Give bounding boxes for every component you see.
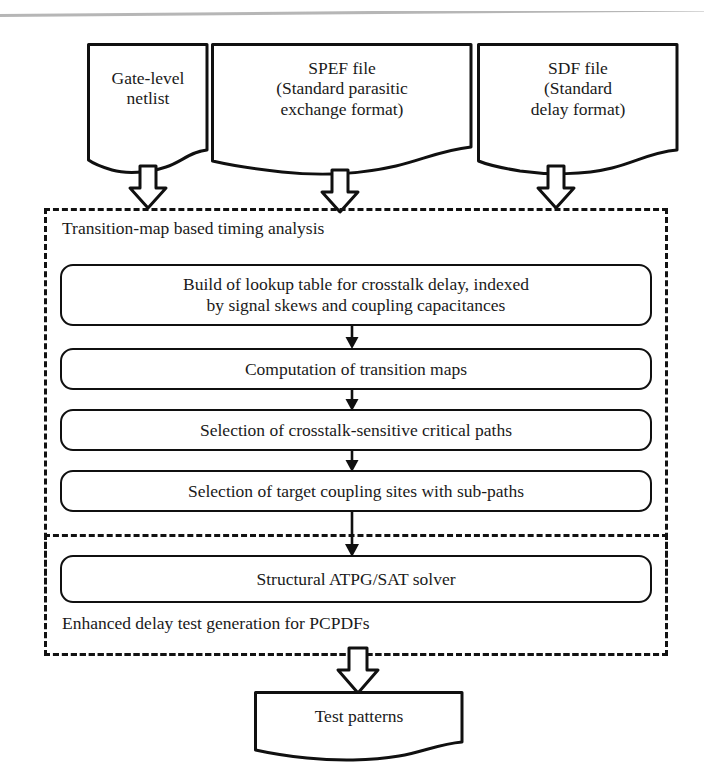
output-doc-test-patterns <box>253 690 465 766</box>
connector-coupling-sites-to-atpg <box>340 510 364 558</box>
connector-lookup-to-transition-maps <box>340 326 364 350</box>
page-rule <box>0 11 704 18</box>
input-doc-spef-file <box>210 42 474 180</box>
step-structural-atpg-sat-solver[interactable]: Structural ATPG/SAT solver <box>60 555 652 603</box>
step-label-selection-of-critical-paths: Selection of crosstalk-sensitive critica… <box>200 420 512 441</box>
connector-transition-maps-to-critical-paths <box>340 388 364 412</box>
step-selection-of-coupling-sites[interactable]: Selection of target coupling sites with … <box>60 470 652 512</box>
step-build-lookup-table[interactable]: Build of lookup table for crosstalk dela… <box>60 264 652 326</box>
step-label-selection-of-coupling-sites: Selection of target coupling sites with … <box>188 481 524 502</box>
input-doc-sdf-file <box>476 42 680 180</box>
step-computation-of-transition-maps[interactable]: Computation of transition maps <box>60 348 652 390</box>
flowchart-figure: Gate-level netlist SPEF file (Standard p… <box>0 0 704 783</box>
step-label-computation-of-transition-maps: Computation of transition maps <box>245 359 467 380</box>
connector-atpg-to-test-patterns <box>334 648 382 696</box>
connector-sdf-to-analysis <box>534 166 578 210</box>
group-label-timing-analysis: Transition-map based timing analysis <box>62 218 324 239</box>
input-doc-gate-level-netlist <box>86 42 210 180</box>
connector-netlist-to-analysis <box>126 166 170 210</box>
step-label-structural-atpg-sat-solver: Structural ATPG/SAT solver <box>257 569 456 590</box>
step-selection-of-critical-paths[interactable]: Selection of crosstalk-sensitive critica… <box>60 409 652 451</box>
group-label-test-generation: Enhanced delay test generation for PCPDF… <box>62 613 370 634</box>
connector-critical-paths-to-coupling-sites <box>340 449 364 473</box>
step-label-build-lookup-table: Build of lookup table for crosstalk dela… <box>183 274 529 316</box>
